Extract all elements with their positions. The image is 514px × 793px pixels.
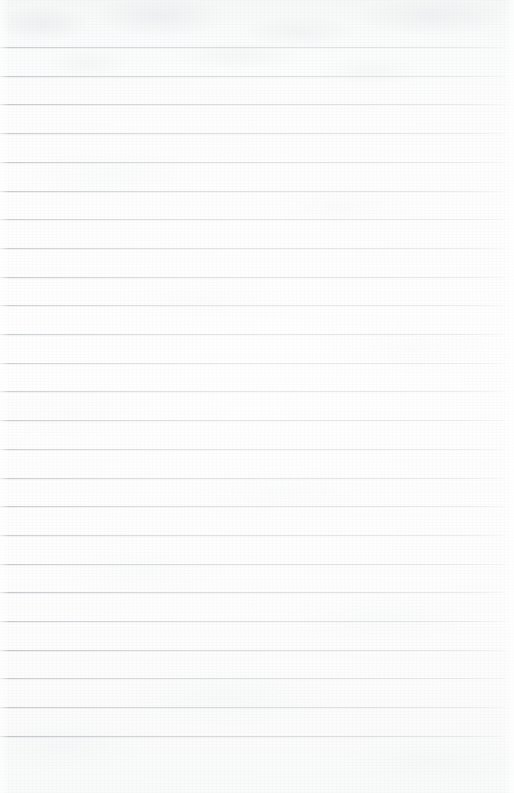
ruled-line [0, 449, 505, 450]
ruled-line [0, 191, 505, 192]
ruled-line [0, 621, 505, 622]
ruled-line [0, 564, 505, 565]
right-margin-strip [504, 0, 514, 793]
ruled-line [0, 219, 505, 220]
ruled-line [0, 707, 505, 708]
left-edge-highlight [0, 0, 9, 793]
ruled-line [0, 305, 505, 306]
ruled-line [0, 391, 505, 392]
ruled-line [0, 133, 505, 134]
ruled-line [0, 104, 505, 105]
ruled-line [0, 478, 505, 479]
ruled-line [0, 277, 505, 278]
ruled-line [0, 650, 505, 651]
ruled-line [0, 736, 505, 737]
ruled-line [0, 248, 505, 249]
ruled-line [0, 420, 505, 421]
ruled-line [0, 506, 505, 507]
ruled-line [0, 678, 505, 679]
ruled-line [0, 334, 505, 335]
ruled-line [0, 47, 505, 48]
ruled-line [0, 162, 505, 163]
ruled-line [0, 535, 505, 536]
ruled-lines-group [0, 0, 514, 793]
ruled-line [0, 363, 505, 364]
ruled-line [0, 76, 505, 77]
ruled-line [0, 592, 505, 593]
scanned-page [0, 0, 514, 793]
